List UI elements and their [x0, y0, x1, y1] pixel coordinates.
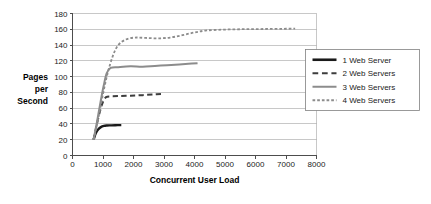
x-tick-label-4000: 4000 — [186, 160, 204, 169]
y-axis-title-line-3: Second — [17, 96, 48, 106]
legend-label-1: 1 Web Server — [343, 56, 392, 65]
x-tick-label-2000: 2000 — [125, 160, 143, 169]
x-tick-label-6000: 6000 — [247, 160, 265, 169]
y-tick-label-120: 120 — [54, 57, 68, 66]
chart-container: 020406080100120140160180 010002000300040… — [0, 0, 431, 204]
y-tick-label-80: 80 — [59, 88, 68, 97]
y-tick-label-140: 140 — [54, 41, 68, 50]
line-chart: 020406080100120140160180 010002000300040… — [0, 0, 431, 204]
x-axis-title: Concurrent User Load — [150, 175, 240, 185]
x-tick-label-1000: 1000 — [94, 160, 112, 169]
y-tick-label-180: 180 — [54, 10, 68, 19]
y-tick-label-60: 60 — [59, 104, 68, 113]
x-tick-label-0: 0 — [70, 160, 75, 169]
y-tick-label-20: 20 — [59, 136, 68, 145]
x-tick-label-5000: 5000 — [216, 160, 234, 169]
legend-label-2: 2 Web Servers — [343, 69, 396, 78]
x-tick-label-3000: 3000 — [155, 160, 173, 169]
y-tick-label-160: 160 — [54, 25, 68, 34]
x-axis-tick-labels: 010002000300040005000600070008000 — [70, 160, 326, 169]
x-tick-label-8000: 8000 — [308, 160, 326, 169]
y-axis-title-line-2: per — [35, 84, 49, 94]
legend-label-3: 3 Web Servers — [343, 83, 396, 92]
y-tick-label-40: 40 — [59, 120, 68, 129]
x-tick-label-7000: 7000 — [277, 160, 295, 169]
y-tick-label-0: 0 — [63, 152, 68, 161]
legend-label-4: 4 Web Servers — [343, 96, 396, 105]
y-axis-title-line-1: Pages — [23, 72, 48, 82]
y-tick-label-100: 100 — [54, 73, 68, 82]
chart-legend: 1 Web Server2 Web Servers3 Web Servers4 … — [306, 50, 420, 111]
